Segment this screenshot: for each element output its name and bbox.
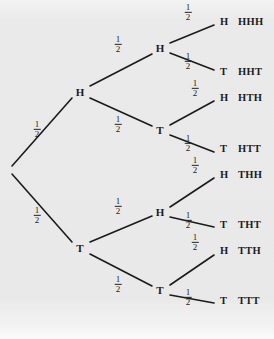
fraction-denominator: 2	[185, 62, 192, 72]
tree-edge-ht-hth	[170, 101, 214, 125]
edge-probability-h-hh: 12	[115, 35, 122, 55]
outcome-flip-tht: T	[220, 220, 227, 231]
fraction-denominator: 2	[185, 298, 192, 308]
fraction-denominator: 2	[115, 125, 122, 135]
outcome-sequence-tht: THT	[238, 220, 261, 231]
edge-probability-ht-htt: 12	[185, 134, 192, 154]
tree-edge-hh-hht	[170, 53, 214, 70]
edge-probability-t-tt: 12	[115, 275, 122, 295]
fraction-denominator: 2	[185, 144, 192, 154]
fraction-denominator: 2	[192, 166, 199, 176]
edge-probability-th-thh: 12	[192, 156, 199, 176]
tree-node-hh: H	[156, 43, 165, 54]
tree-node-th: H	[156, 207, 165, 218]
edge-probability-th-tht: 12	[185, 211, 192, 231]
outcome-sequence-hht: HHT	[238, 67, 262, 78]
tree-edge-th-thh	[170, 178, 214, 207]
tree-edge-ht-htt	[170, 135, 214, 152]
outcome-sequence-hhh: HHH	[238, 17, 263, 28]
fraction-denominator: 2	[192, 243, 199, 253]
edge-probability-t-th: 12	[115, 197, 122, 217]
tree-edge-h-hh	[90, 54, 152, 86]
outcome-flip-htt: T	[220, 144, 227, 155]
tree-edge-tt-ttt	[170, 295, 214, 303]
fraction-denominator: 2	[192, 89, 199, 99]
outcome-sequence-htt: HTT	[238, 144, 261, 155]
tree-node-ht: T	[156, 125, 163, 136]
probability-tree-figure: 1212121212121212121212121212HTHTHTHHHHTH…	[0, 0, 274, 339]
tree-node-h: H	[76, 87, 85, 98]
outcome-sequence-thh: THH	[238, 170, 262, 181]
tree-edge-hh-hhh	[170, 25, 214, 43]
tree-edge-tt-tth	[170, 255, 214, 285]
tree-node-t: T	[76, 243, 83, 254]
fraction-denominator: 2	[115, 207, 122, 217]
fraction-denominator: 2	[34, 130, 41, 140]
fraction-denominator: 2	[185, 13, 192, 23]
edge-probability-root-t: 12	[34, 206, 41, 226]
outcome-flip-ttt: T	[220, 296, 227, 307]
tree-node-tt: T	[156, 285, 163, 296]
tree-edge-root-h	[12, 98, 72, 166]
edge-probability-tt-tth: 12	[192, 233, 199, 253]
tree-edge-root-t	[12, 174, 72, 242]
outcome-sequence-tth: TTH	[238, 246, 261, 257]
outcome-flip-hhh: H	[220, 17, 228, 28]
fraction-denominator: 2	[185, 221, 192, 231]
tree-edge-layer	[0, 0, 274, 339]
tree-edge-t-th	[90, 216, 152, 242]
edge-probability-hh-hht: 12	[185, 52, 192, 72]
fraction-denominator: 2	[115, 45, 122, 55]
edge-probability-h-ht: 12	[115, 115, 122, 135]
edge-probability-ht-hth: 12	[192, 79, 199, 99]
fraction-denominator: 2	[115, 285, 122, 295]
outcome-sequence-ttt: TTT	[238, 296, 260, 307]
outcome-flip-thh: H	[220, 170, 228, 181]
outcome-sequence-hth: HTH	[238, 93, 262, 104]
fraction-denominator: 2	[34, 216, 41, 226]
outcome-flip-tth: H	[220, 246, 228, 257]
outcome-flip-hth: H	[220, 93, 228, 104]
edge-probability-root-h: 12	[34, 120, 41, 140]
edge-probability-hh-hhh: 12	[185, 3, 192, 23]
tree-edge-th-tht	[170, 217, 214, 227]
outcome-flip-hht: T	[220, 67, 227, 78]
edge-probability-tt-ttt: 12	[185, 288, 192, 308]
